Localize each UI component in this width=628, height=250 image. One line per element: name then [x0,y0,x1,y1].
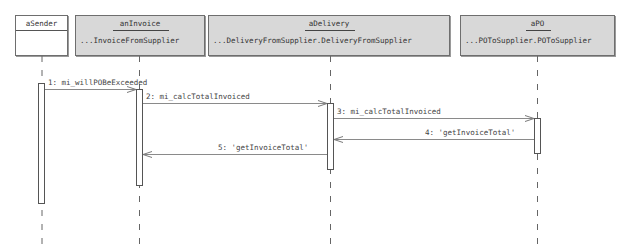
activation-asender [39,84,45,204]
message-label-3: 3: mi_calcTotalInvoiced [337,107,441,116]
message-label-5: 5: 'getInvoiceTotal' [218,143,308,152]
message-label-2: 2: mi_calcTotalInvoiced [146,92,250,101]
sequence-diagram-canvas [0,0,628,250]
activation-adelivery [328,104,334,170]
message-label-1: 1: mi_willPOBeExceeded [48,78,147,87]
activation-aninvoice [137,90,143,186]
activation-apo [535,119,541,154]
message-label-4: 4: 'getInvoiceTotal' [425,128,515,137]
